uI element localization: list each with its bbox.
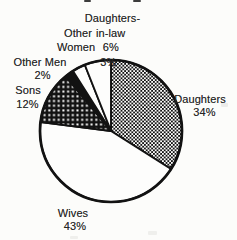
sons-label: 12% [16,99,38,110]
cropped-text-fragment [133,0,141,2]
other-women-label: 3% [100,56,116,67]
daughters-in-law-label: in-law [96,28,125,39]
scan-speck [70,236,78,239]
cropped-text-fragment [84,0,91,2]
daughters-label: 34% [193,107,215,118]
other-women-label: Other [64,28,92,39]
pie-chart-figure: Daughters34%Wives43%Sons12%Other Men2%Ot… [0,0,237,240]
daughters-in-law-label: Daughters- [85,13,140,24]
daughters-in-law-label: 6% [103,41,119,52]
other-men-label: Other Men [14,57,67,68]
wives-label: Wives [58,207,88,218]
scan-speck [148,231,157,235]
other-women-label: Women [57,42,95,53]
daughters-label: Daughters [174,93,226,104]
scan-speck [221,103,228,107]
sons-label: Sons [15,85,40,96]
other-men-label: 2% [34,70,50,81]
wives-label: 43% [64,221,86,232]
